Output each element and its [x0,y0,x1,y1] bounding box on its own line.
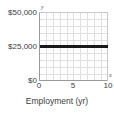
x-axis-letter: x [109,72,112,78]
x-tick-label-0: 0 [31,82,47,90]
x-tick-label-5: 5 [65,82,81,90]
y-tick-label-50000: $50,000 [8,9,37,17]
plot-area [39,12,108,81]
chart-figure: y x $50,000 $25,000 $0 0 5 10 Employment… [0,0,114,117]
x-axis-title: Employment (yr) [0,97,114,106]
y-tick-label-25000: $25,000 [8,43,37,51]
y-axis-letter: y [41,4,44,10]
x-tick-label-10: 10 [100,82,114,90]
grid-and-data-svg [39,12,108,81]
